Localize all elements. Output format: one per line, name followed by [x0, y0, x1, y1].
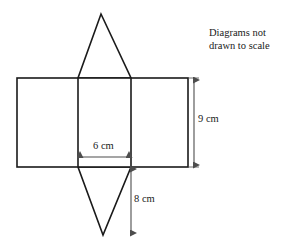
- triangle-bottom: [78, 167, 131, 235]
- diagram-canvas: Diagrams not drawn to scale 6 cm 9 cm 8 …: [0, 0, 284, 246]
- not-to-scale-note-line1: Diagrams not: [209, 27, 266, 38]
- not-to-scale-note-line2: drawn to scale: [209, 40, 270, 51]
- triangle-top: [78, 14, 131, 78]
- rectangle-band: [17, 78, 188, 167]
- dimension-label-6cm: 6 cm: [93, 140, 114, 151]
- dimension-label-8cm: 8 cm: [134, 193, 155, 204]
- dimension-label-9cm: 9 cm: [198, 113, 219, 124]
- not-to-scale-note: Diagrams not drawn to scale: [209, 26, 281, 52]
